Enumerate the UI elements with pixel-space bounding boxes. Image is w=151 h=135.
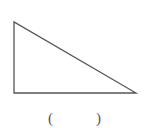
right-triangle	[14, 22, 136, 93]
answer-left-paren: (	[48, 109, 53, 127]
answer-right-paren: )	[96, 109, 101, 127]
triangle-figure	[0, 0, 151, 135]
